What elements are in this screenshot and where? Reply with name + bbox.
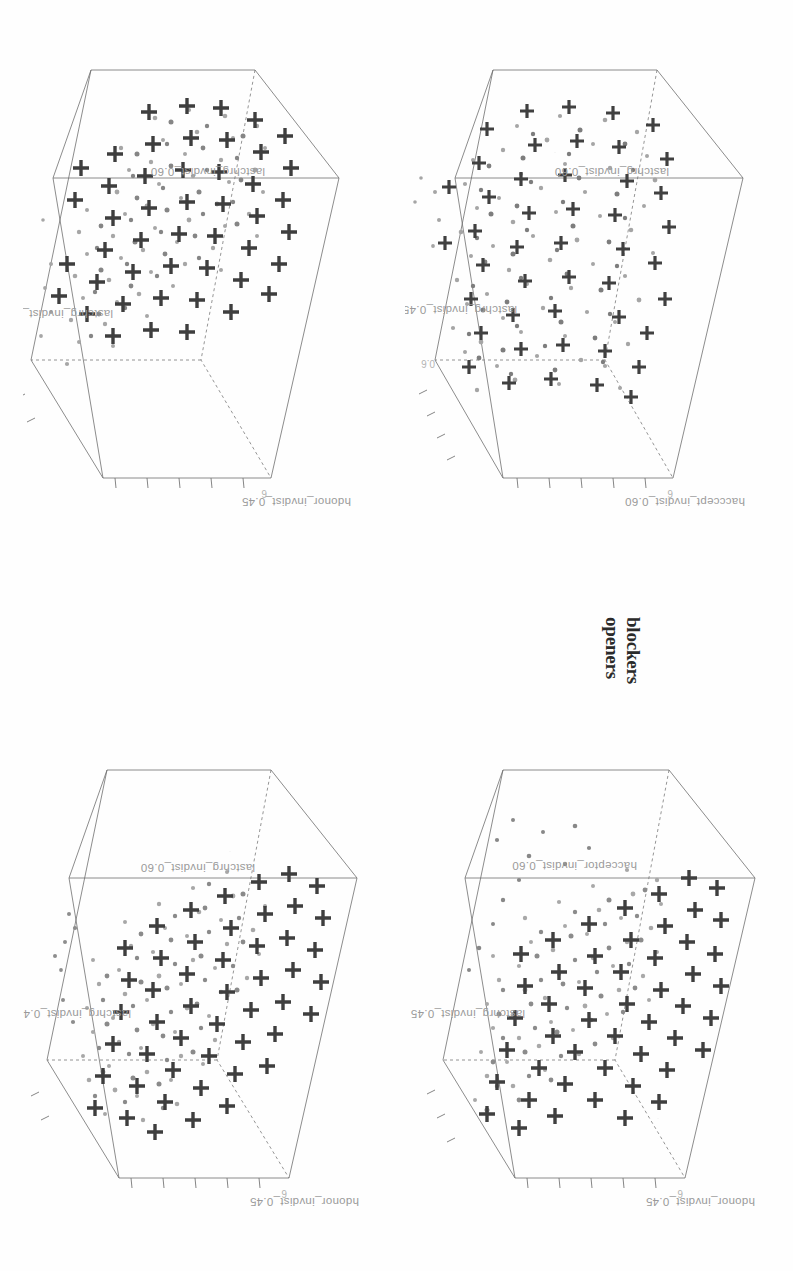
data-points-top-left	[413, 100, 676, 404]
axis-tick-z-top-left: 6	[667, 488, 673, 499]
axis-label-z-bottom-left: hdonor_invdist_0.45	[242, 496, 351, 508]
axis-label-x-top-left: lastchrg_invdist_0.45	[405, 304, 517, 316]
axis-label-y-bottom-right: lastchrg_invdist_0.60	[141, 862, 255, 874]
plot-panel-bottom-right: hdonor_invdist_0.45 lastchrg_invdist_0.4…	[23, 760, 383, 1230]
axis-tick-z-top-right: 6	[677, 1188, 683, 1199]
legend: blockers openers	[602, 617, 643, 767]
axis-tick-z-bottom-left: 6	[261, 488, 267, 499]
legend-entry-openers: openers	[602, 617, 623, 767]
axis-label-y-top-right: hacceptor_invdist_0.60	[512, 860, 637, 872]
scatter-3d-bottom-right: hdonor_invdist_0.45 lastchrg_invdist_0.4…	[23, 760, 383, 1230]
axis-ticks-bottom-left	[23, 394, 244, 488]
scatter-3d-bottom-left: hdonor_invdist_0.45 lastchrg_invdist_0.4…	[23, 60, 383, 530]
axis-tick-z-bottom-right: 6	[281, 1188, 287, 1199]
plot-panel-bottom-left: hdonor_invdist_0.45 lastchrg_invdist_0.4…	[23, 60, 383, 530]
data-points-bottom-left	[39, 98, 299, 366]
axis-label-x-bottom-left: lastchrg_invdist_0.45	[23, 308, 113, 320]
scatter-3d-top-left: hacccept_invdist_0.60 lastchrg_invdist_0…	[405, 60, 765, 530]
scanned-figure-page: hacccept_invdist_0.60 lastchrg_invdist_0…	[0, 0, 793, 1271]
axis-tick-x-top-left: 0.6	[421, 358, 435, 369]
axis-label-x-bottom-right: lastchrg_invdist_0.45	[23, 1008, 131, 1020]
axis-box-top-left	[435, 70, 743, 478]
axis-label-y-top-left: lastchrg_invdist_0.60	[555, 166, 669, 178]
axis-label-y-bottom-left: lastchrg_invdist_0.60	[151, 166, 265, 178]
axis-label-z-bottom-right: hdonor_invdist_0.45	[250, 1196, 359, 1208]
axis-label-z-top-left: hacccept_invdist_0.60	[625, 496, 745, 508]
legend-entry-blockers: blockers	[622, 617, 643, 767]
scatter-3d-top-right: hdonor_invdist_0.45 lastchrg_invdist_0.4…	[405, 760, 765, 1230]
data-points-bottom-right	[53, 866, 331, 1140]
axis-ticks-top-right	[427, 1090, 656, 1188]
plot-grid: hacccept_invdist_0.60 lastchrg_invdist_0…	[0, 0, 793, 1271]
axis-ticks-top-left	[419, 390, 646, 488]
axis-box-bottom-left	[31, 70, 339, 478]
axis-box-top-right	[443, 770, 755, 1178]
plot-panel-top-right: hdonor_invdist_0.45 lastchrg_invdist_0.4…	[405, 760, 765, 1230]
axis-box-bottom-right	[47, 770, 357, 1178]
axis-label-x-top-right: lastchrg_invdist_0.45	[411, 1008, 525, 1020]
axis-label-z-top-right: hdonor_invdist_0.45	[646, 1196, 755, 1208]
plot-panel-top-left: hacccept_invdist_0.60 lastchrg_invdist_0…	[405, 60, 765, 530]
